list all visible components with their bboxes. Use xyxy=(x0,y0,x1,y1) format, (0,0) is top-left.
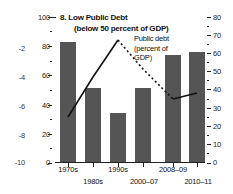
plot-area xyxy=(55,16,205,163)
right-axis-label-30: 30 xyxy=(213,104,221,113)
x-label-1990s: 1990s xyxy=(102,165,134,174)
right-axis-label-20: 20 xyxy=(213,122,221,131)
annotation-line-2: (percent of xyxy=(134,44,169,54)
left-axis-tick-major xyxy=(48,46,52,47)
right-axis-tick-minor xyxy=(207,99,209,100)
right-axis-label-40: 40 xyxy=(213,85,221,94)
right-axis-tick-major xyxy=(207,89,211,90)
right-axis-tick-major xyxy=(207,71,211,72)
x-label-2008-09: 2008–09 xyxy=(153,165,193,174)
right-axis-tick-minor xyxy=(207,153,209,154)
left-axis-tick-major xyxy=(48,75,52,76)
public-debt-line-solid-early xyxy=(68,40,118,117)
right-axis-label-10: 10 xyxy=(213,140,221,149)
right-axis-label-80: 80 xyxy=(213,13,221,22)
neighbour-axis-label: -2 xyxy=(19,44,25,53)
x-label-1970s: 1970s xyxy=(52,165,84,174)
left-axis-tick-minor xyxy=(50,148,52,149)
right-axis-label-70: 70 xyxy=(213,31,221,40)
neighbour-axis-label: -4 xyxy=(19,73,25,82)
neighbour-axis-label: -6 xyxy=(19,102,25,111)
right-axis-tick-minor xyxy=(207,62,209,63)
annotation-line-1: Public debt xyxy=(134,34,169,44)
annotation-line-3: GDP) xyxy=(134,53,169,63)
x-axis-labels: 1970s 1980s 1990s 2000–07 2008–09 2010–1… xyxy=(0,163,233,194)
right-axis-tick-major xyxy=(207,126,211,127)
right-axis-tick-minor xyxy=(207,80,209,81)
left-axis-tick-minor xyxy=(50,90,52,91)
right-axis-tick-major xyxy=(207,144,211,145)
public-debt-line-series xyxy=(55,16,205,163)
x-label-2000-07: 2000–07 xyxy=(124,177,164,186)
neighbour-axis-label: -8 xyxy=(19,131,25,140)
left-axis-tick-major xyxy=(48,134,52,135)
x-label-1980s: 1980s xyxy=(77,177,109,186)
right-axis-label-50: 50 xyxy=(213,67,221,76)
x-label-2010-11: 2010–11 xyxy=(178,177,218,186)
right-axis-tick-major xyxy=(207,35,211,36)
left-axis-tick-major xyxy=(48,105,52,106)
series-annotation: Public debt (percent of GDP) xyxy=(134,34,169,63)
left-axis-tick-minor xyxy=(50,119,52,120)
right-axis-tick-minor xyxy=(207,44,209,45)
left-axis-tick-minor xyxy=(50,31,52,32)
right-axis-tick-major xyxy=(207,108,211,109)
public-debt-line-solid-late xyxy=(173,93,197,99)
left-axis-tick-minor xyxy=(50,61,52,62)
right-axis-tick-minor xyxy=(207,135,209,136)
right-axis-tick-minor xyxy=(207,26,209,27)
right-axis-tick-minor xyxy=(207,117,209,118)
chart-figure: -2 -4 -6 -8 -10 8. Low Public Debt (belo… xyxy=(0,0,233,194)
right-axis-tick-major xyxy=(207,17,211,18)
right-axis-label-60: 60 xyxy=(213,49,221,58)
left-axis-tick-major xyxy=(48,17,52,18)
right-axis-tick-major xyxy=(207,53,211,54)
